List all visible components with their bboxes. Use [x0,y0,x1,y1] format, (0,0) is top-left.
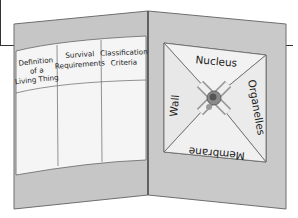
header-3-line-2: Criteria [110,58,137,68]
header-3-line-1: Classification [100,47,148,58]
foldable-illustration: Definition of a Living Thing Survival Re… [0,0,298,218]
flap-label-left: Wall [167,94,181,117]
